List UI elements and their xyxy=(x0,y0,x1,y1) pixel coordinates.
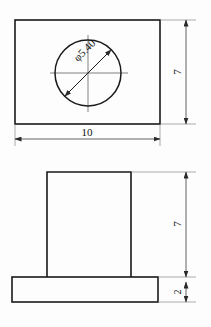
canvas-background xyxy=(0,0,211,327)
front-base-height-label: 2 xyxy=(172,290,183,295)
top-height-label: 7 xyxy=(171,69,183,75)
technical-drawing-root: φ5.40 10 7 7 2 xyxy=(0,0,211,327)
top-width-label: 10 xyxy=(82,126,94,138)
drawing-canvas: φ5.40 10 7 7 2 xyxy=(0,0,211,327)
front-upper-height-label: 7 xyxy=(171,221,183,227)
